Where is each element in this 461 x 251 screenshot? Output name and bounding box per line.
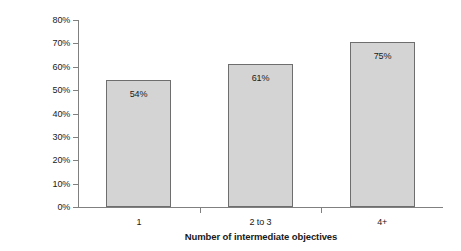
y-axis-tick bbox=[73, 184, 78, 185]
bar-value-label: 61% bbox=[228, 73, 293, 83]
y-axis-tick-label-wrap: 20% bbox=[30, 156, 70, 165]
y-axis-tick-label: 80% bbox=[34, 16, 70, 25]
x-axis-category-label: 4+ bbox=[332, 216, 432, 228]
y-axis-tick-label: 40% bbox=[34, 110, 70, 119]
y-axis-tick-label: 60% bbox=[34, 63, 70, 72]
x-axis-line bbox=[78, 207, 443, 208]
y-axis-tick bbox=[73, 114, 78, 115]
y-axis-tick-label-wrap: 40% bbox=[30, 110, 70, 119]
y-axis-tick-label: 50% bbox=[34, 86, 70, 95]
bar bbox=[350, 42, 415, 207]
y-axis-tick-label: 10% bbox=[34, 180, 70, 189]
y-axis-tick-label-wrap: 80% bbox=[30, 16, 70, 25]
x-axis-title: Number of intermediate objectives bbox=[78, 231, 444, 242]
y-axis-tick-label-wrap: 70% bbox=[30, 39, 70, 48]
y-axis-tick bbox=[73, 160, 78, 161]
y-axis-tick bbox=[73, 20, 78, 21]
y-axis-tick bbox=[73, 90, 78, 91]
x-axis-tick bbox=[321, 208, 322, 213]
bar-value-label: 54% bbox=[106, 89, 171, 99]
x-axis-tick bbox=[200, 208, 201, 213]
bar-value-label: 75% bbox=[350, 51, 415, 61]
y-axis-tick bbox=[73, 67, 78, 68]
y-axis-tick-label-wrap: 60% bbox=[30, 63, 70, 72]
y-axis-line bbox=[78, 20, 79, 208]
y-axis-tick-label-wrap: 30% bbox=[30, 133, 70, 142]
bar bbox=[228, 64, 293, 207]
bar bbox=[106, 80, 171, 207]
y-axis-tick bbox=[73, 137, 78, 138]
y-axis-tick-label: 30% bbox=[34, 133, 70, 142]
y-axis-tick bbox=[73, 207, 78, 208]
bar-chart: Effectiveness success rate 0%10%20%30%40… bbox=[0, 0, 461, 251]
y-axis-tick-label: 20% bbox=[34, 156, 70, 165]
y-axis-tick bbox=[73, 43, 78, 44]
y-axis-tick-label: 70% bbox=[34, 39, 70, 48]
y-axis-tick-label-wrap: 0% bbox=[30, 203, 70, 212]
x-axis-category-label: 1 bbox=[89, 216, 189, 228]
y-axis-tick-label-wrap: 10% bbox=[30, 180, 70, 189]
y-axis-tick-label: 0% bbox=[34, 203, 70, 212]
y-axis-tick-label-wrap: 50% bbox=[30, 86, 70, 95]
x-axis-category-label: 2 to 3 bbox=[211, 216, 311, 228]
